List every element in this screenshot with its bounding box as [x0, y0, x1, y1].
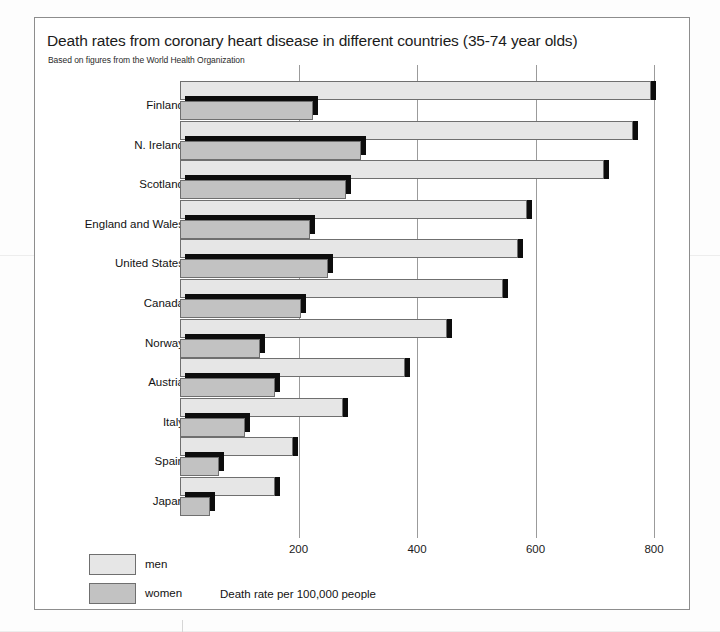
category-label-finland: Finland	[146, 99, 184, 111]
category-label-norway: Norway	[145, 337, 184, 349]
category-label-scotland: Scotland	[139, 178, 184, 190]
x-tick-label-400: 400	[407, 543, 426, 555]
plot-area: 200400600800 FinlandN. IrelandScotlandEn…	[35, 18, 689, 609]
bar-women	[180, 418, 245, 437]
category-label-austria: Austria	[148, 376, 184, 388]
bar-women	[180, 457, 219, 476]
chart-frame: Death rates from coronary heart disease …	[34, 17, 690, 610]
bar-women	[180, 497, 210, 516]
x-tick-label-600: 600	[526, 543, 545, 555]
bar-women	[180, 259, 328, 278]
bar-group: Japan	[35, 477, 689, 524]
legend-label-women: women	[145, 587, 182, 599]
bar-women	[180, 180, 346, 199]
bar-women	[180, 299, 301, 318]
x-tick-label-200: 200	[289, 543, 308, 555]
legend-label-men: men	[145, 558, 167, 570]
category-label-united-states: United States	[115, 257, 184, 269]
legend-swatch-men	[89, 554, 136, 575]
bar-women	[180, 141, 361, 160]
bar-women	[180, 220, 310, 239]
chart-page: Death rates from coronary heart disease …	[0, 0, 720, 632]
x-axis-caption: Death rate per 100,000 people	[220, 588, 376, 600]
bar-women	[180, 339, 260, 358]
category-label-canada: Canada	[144, 297, 184, 309]
bar-women	[180, 101, 313, 120]
legend-swatch-women	[89, 583, 136, 604]
x-tick-label-800: 800	[644, 543, 663, 555]
category-label-england-and-wales: England and Wales	[85, 218, 184, 230]
bar-women	[180, 378, 275, 397]
page-artifact-mark	[182, 620, 183, 632]
category-label-n-ireland: N. Ireland	[134, 139, 184, 151]
